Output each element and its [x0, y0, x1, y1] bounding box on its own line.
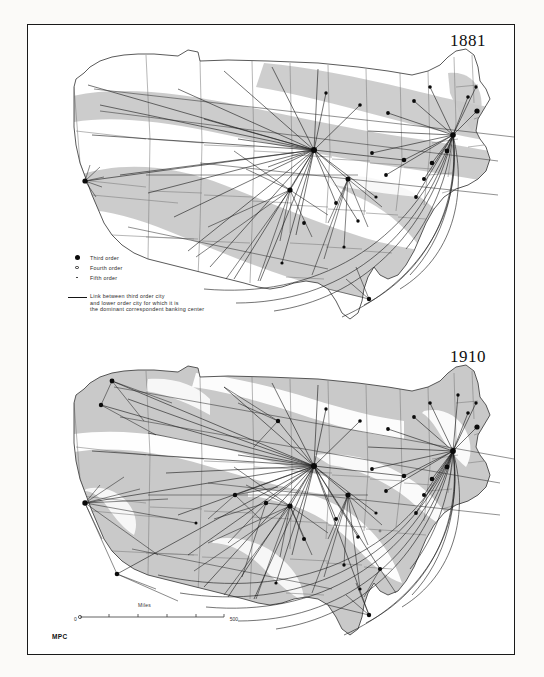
year-label-1881: 1881: [450, 31, 486, 51]
scale-min-label: 0: [74, 616, 77, 622]
legend-link-line-3: the dominant correspondent banking cente…: [90, 306, 204, 313]
legend-label-fourth-order: Fourth order: [90, 265, 123, 271]
figure-credit: MPC: [52, 633, 68, 640]
fifth-order-dot-icon: [64, 277, 90, 279]
legend-link-line-1: Link between third order city: [90, 293, 204, 300]
legend-row-third-order: Third order: [64, 253, 123, 262]
legend-label-fifth-order: Fifth order: [90, 275, 117, 281]
legend-row-fifth-order: Fifth order: [64, 273, 123, 282]
scale-bar: Miles 0 500: [76, 603, 228, 629]
map-legend-symbols: Third order Fourth order Fifth order: [64, 253, 123, 283]
third-order-dot-icon: [64, 255, 90, 260]
scale-bar-graphic: [76, 611, 228, 627]
legend-link-line-2: and lower order city for which it is: [90, 300, 204, 307]
legend-row-fourth-order: Fourth order: [64, 263, 123, 272]
link-line-icon: [64, 293, 90, 298]
map-legend-link: Link between third order city and lower …: [64, 293, 204, 313]
scale-unit-label: Miles: [138, 602, 151, 608]
fourth-order-circle-icon: [64, 266, 90, 269]
year-label-1910: 1910: [450, 347, 486, 367]
legend-label-third-order: Third order: [90, 255, 119, 261]
scale-max-label: 500: [230, 616, 238, 622]
figure-frame: 1881: [27, 24, 515, 655]
